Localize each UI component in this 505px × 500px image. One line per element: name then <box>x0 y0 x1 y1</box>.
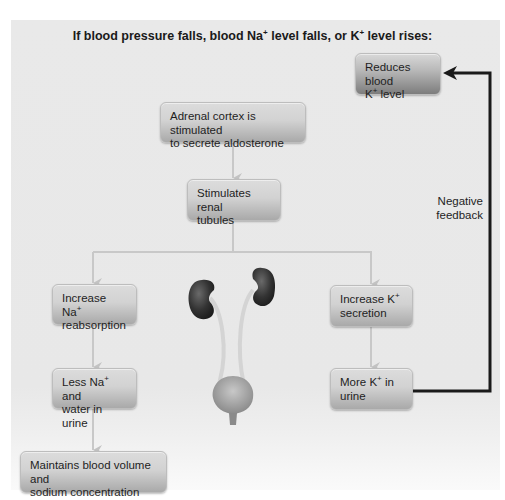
label-text: Negative <box>430 195 483 209</box>
node-text: K+ level <box>365 88 432 102</box>
kidney-bladder-illustration <box>189 268 276 425</box>
negative-feedback-label: Negative feedback <box>430 195 483 222</box>
node-text: Increase K+ <box>340 293 404 307</box>
node-text: tubules <box>197 214 272 228</box>
node-text: Adrenal cortex is stimulated <box>170 110 297 137</box>
node-reduces-blood-k: Reduces blood K+ level <box>355 53 441 95</box>
node-adrenal-cortex: Adrenal cortex is stimulated to secrete … <box>160 102 306 143</box>
node-stimulates-renal-tubules: Stimulates renal tubules <box>187 179 281 221</box>
node-text: water in urine <box>62 403 128 430</box>
node-text: More K+ in <box>340 376 404 390</box>
node-maintains-blood-volume: Maintains blood volume and sodium concen… <box>20 451 167 493</box>
node-text: Reduces blood <box>365 61 432 88</box>
node-increase-k-secretion: Increase K+ secretion <box>330 285 413 327</box>
node-more-k-urine: More K+ in urine <box>330 368 413 410</box>
node-text: to secrete aldosterone <box>170 137 297 151</box>
node-less-na-water-urine: Less Na+ and water in urine <box>52 368 137 409</box>
node-text: urine <box>340 390 404 404</box>
node-text: secretion <box>340 307 404 321</box>
node-text: reabsorption <box>62 319 128 333</box>
node-text: Less Na+ and <box>62 376 128 403</box>
node-text: Increase Na+ <box>62 292 128 319</box>
node-text: Maintains blood volume and <box>30 459 158 486</box>
node-text: Stimulates renal <box>197 187 272 214</box>
label-text: feedback <box>430 209 483 223</box>
node-text: sodium concentration <box>30 486 158 500</box>
node-increase-na-reabsorption: Increase Na+ reabsorption <box>52 284 137 325</box>
negative-feedback-arrow <box>412 66 490 391</box>
